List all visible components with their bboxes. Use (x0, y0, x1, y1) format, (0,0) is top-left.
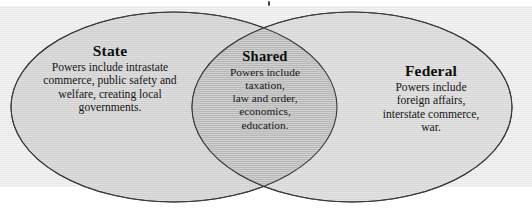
shared-line-1: Powers include (230, 66, 300, 78)
federal-line-3: interstate commerce, (383, 108, 480, 121)
federal-line-1: Powers include (395, 81, 466, 94)
shared-line-5: education. (241, 119, 288, 131)
state-line-3: welfare, creating local (58, 88, 161, 101)
shared-body: Powers include taxation, law and order, … (204, 66, 326, 132)
federal-line-4: war. (421, 121, 441, 134)
shared-line-4: economics, (239, 105, 291, 117)
shared-line-2: taxation, (245, 79, 285, 91)
venn-diagram: State Powers include intrastate commerce… (0, 0, 532, 219)
federal-title: Federal (356, 62, 506, 80)
shared-line-3: law and order, (232, 92, 297, 104)
shared-label-block: Shared Powers include taxation, law and … (204, 48, 326, 132)
state-title: State (28, 42, 192, 60)
scan-artifact-speck (268, 1, 270, 6)
federal-line-2: foreign affairs, (397, 94, 466, 107)
state-line-2: commerce, public safety and (43, 74, 176, 87)
state-body: Powers include intrastate commerce, publ… (28, 61, 192, 115)
federal-body: Powers include foreign affairs, intersta… (356, 81, 506, 135)
state-label-block: State Powers include intrastate commerce… (28, 42, 192, 115)
shared-title: Shared (204, 48, 326, 65)
federal-label-block: Federal Powers include foreign affairs, … (356, 62, 506, 135)
state-line-4: governments. (79, 101, 142, 114)
state-line-1: Powers include intrastate (52, 61, 169, 74)
